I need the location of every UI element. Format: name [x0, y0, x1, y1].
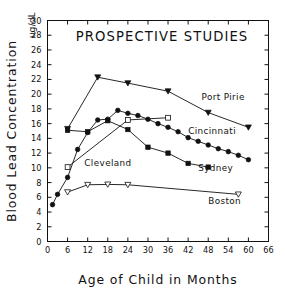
data-point-marker: [65, 165, 70, 170]
data-point-marker: [236, 153, 241, 158]
data-point-marker: [146, 145, 150, 149]
series-label-boston: Boston: [208, 196, 241, 206]
data-point-marker: [205, 110, 211, 115]
series-line-boston: [68, 184, 239, 194]
data-point-marker: [65, 190, 71, 195]
y-axis-units: ug/dL: [27, 12, 37, 38]
data-point-marker: [216, 146, 221, 151]
chart-figure: 0246810121416182022242628300612182430364…: [0, 0, 285, 291]
data-point-marker: [126, 111, 131, 116]
series-line-cincinnati: [53, 110, 249, 204]
y-tick-label: 10: [31, 163, 41, 173]
x-tick-label: 48: [203, 245, 213, 255]
data-point-marker: [186, 135, 191, 140]
series-label-cleveland: Cleveland: [84, 158, 131, 168]
y-tick-label: 14: [31, 133, 41, 143]
data-point-marker: [246, 157, 251, 162]
data-point-marker: [166, 151, 170, 155]
data-point-marker: [85, 130, 89, 134]
data-point-marker: [136, 113, 141, 118]
y-tick-label: 24: [31, 60, 41, 70]
data-point-marker: [186, 161, 190, 165]
data-point-marker: [166, 115, 171, 120]
data-point-marker: [50, 202, 55, 207]
data-point-marker: [206, 143, 211, 148]
x-tick-label: 12: [82, 245, 92, 255]
x-tick-label: 42: [183, 245, 193, 255]
y-tick-label: 0: [36, 237, 41, 247]
y-tick-label: 16: [31, 119, 41, 129]
x-tick-label: 6: [65, 245, 70, 255]
series-label-cincinnati: Cincinnati: [188, 126, 236, 136]
series-label-sydney: Sydney: [198, 163, 233, 173]
data-point-marker: [65, 175, 70, 180]
x-tick-label: 36: [163, 245, 173, 255]
y-tick-label: 12: [31, 148, 41, 158]
chart-canvas: 0246810121416182022242628300612182430364…: [0, 0, 285, 291]
y-tick-label: 2: [36, 222, 41, 232]
data-point-marker: [106, 118, 110, 122]
y-tick-label: 20: [31, 89, 41, 99]
x-tick-label: 66: [263, 245, 273, 255]
x-tick-label: 60: [243, 245, 253, 255]
data-point-marker: [245, 125, 251, 130]
data-point-marker: [226, 149, 231, 154]
data-point-marker: [196, 139, 201, 144]
data-point-marker: [126, 127, 130, 131]
y-tick-label: 22: [31, 74, 41, 84]
data-point-marker: [116, 108, 121, 113]
y-tick-label: 8: [36, 178, 41, 188]
chart-title: PROSPECTIVE STUDIES: [76, 29, 249, 44]
data-point-marker: [156, 121, 161, 126]
data-point-marker: [176, 129, 181, 134]
x-tick-label: 0: [45, 245, 50, 255]
y-axis-title: Blood Lead Concentration: [4, 40, 19, 222]
x-tick-label: 24: [123, 245, 133, 255]
y-tick-label: 26: [31, 45, 41, 55]
prospective-studies-line-chart: 0246810121416182022242628300612182430364…: [0, 0, 285, 291]
series-label-port-pirie: Port Pirie: [202, 92, 245, 102]
data-point-marker: [75, 147, 80, 152]
data-point-marker: [166, 125, 171, 130]
data-point-marker: [55, 192, 60, 197]
y-tick-label: 6: [36, 192, 41, 202]
data-point-marker: [65, 128, 69, 132]
y-tick-label: 4: [36, 207, 41, 217]
x-axis-title: Age of Child in Months: [78, 272, 237, 287]
x-tick-label: 54: [223, 245, 233, 255]
x-tick-label: 30: [143, 245, 153, 255]
data-point-marker: [95, 118, 100, 123]
data-point-marker: [165, 89, 171, 94]
y-tick-label: 18: [31, 104, 41, 114]
x-tick-label: 18: [103, 245, 113, 255]
data-point-marker: [125, 118, 130, 123]
